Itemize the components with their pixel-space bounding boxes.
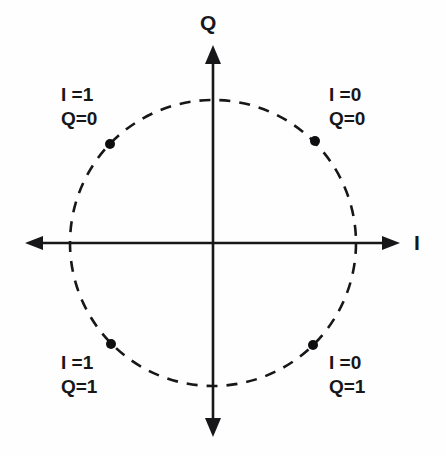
constellation-point-i0-q1	[308, 340, 318, 350]
quadrant-label-top-left: I =1 Q=0	[61, 83, 97, 132]
quadrature-axis-label: Q	[200, 12, 217, 33]
quadrant-label-top-right: I =0 Q=0	[329, 83, 365, 132]
quadrant-label-bottom-left-q: Q=1	[61, 375, 97, 399]
quadrant-label-bottom-right-q: Q=1	[329, 375, 365, 399]
quadrant-label-top-left-q: Q=0	[61, 107, 97, 131]
quadrant-label-bottom-left: I =1 Q=1	[61, 351, 97, 400]
left-arrow-icon	[25, 236, 43, 250]
quadrant-label-top-right-i: I =0	[329, 83, 365, 107]
quadrant-label-bottom-left-i: I =1	[61, 351, 97, 375]
qpsk-constellation-figure: Q I I =1 Q=0 I =0 Q=0 I =1 Q=1 I =0 Q=1	[0, 0, 446, 457]
up-arrow-icon	[205, 45, 221, 64]
constellation-point-i1-q0	[105, 139, 115, 149]
constellation-point-i1-q1	[106, 339, 116, 349]
down-arrow-icon	[205, 418, 221, 437]
quadrant-label-bottom-right: I =0 Q=1	[329, 351, 365, 400]
quadrant-label-top-right-q: Q=0	[329, 107, 365, 131]
quadrant-label-top-left-i: I =1	[61, 83, 97, 107]
quadrant-label-bottom-right-i: I =0	[329, 351, 365, 375]
constellation-point-i0-q0	[310, 136, 320, 146]
in-phase-axis-label: I	[414, 232, 420, 253]
right-arrow-icon	[382, 236, 400, 250]
